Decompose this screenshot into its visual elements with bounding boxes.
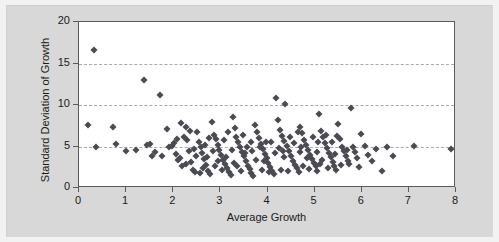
data-point: [209, 147, 216, 154]
data-point: [328, 138, 335, 145]
data-point: [305, 165, 312, 172]
data-point: [315, 139, 322, 146]
x-axis-tick-label: 8: [440, 194, 470, 206]
x-axis-tick: [455, 187, 456, 192]
data-point: [221, 136, 228, 143]
x-axis-tick: [125, 187, 126, 192]
data-point: [346, 160, 353, 167]
data-point: [90, 47, 97, 54]
data-point: [109, 124, 116, 131]
data-point: [357, 131, 364, 138]
data-point: [85, 121, 92, 128]
data-point: [187, 127, 194, 134]
data-point: [337, 161, 344, 168]
data-point: [335, 121, 342, 128]
data-point: [252, 121, 259, 128]
x-axis-tick: [219, 187, 220, 192]
data-point: [410, 142, 417, 149]
y-axis-tick-label: 15: [52, 57, 70, 68]
data-point: [282, 101, 289, 108]
x-axis-tick: [78, 187, 79, 192]
scatter-plot-figure: Standard Deviation of Growth 05101520 01…: [0, 0, 499, 242]
gridline-y-10: [79, 105, 454, 106]
data-point: [295, 169, 302, 176]
data-point: [224, 129, 231, 136]
data-point: [277, 166, 284, 173]
data-point: [206, 170, 213, 177]
x-axis-tick-label: 3: [204, 194, 234, 206]
data-point: [272, 95, 279, 102]
data-point: [384, 143, 391, 150]
x-axis-tick-label: 5: [299, 194, 329, 206]
data-point: [378, 168, 385, 175]
data-point: [285, 168, 292, 175]
y-axis-tick-label: 5: [52, 140, 70, 151]
x-axis-tick-label: 7: [393, 194, 423, 206]
x-axis-tick: [172, 187, 173, 192]
data-point: [316, 111, 323, 118]
data-point: [361, 142, 368, 149]
data-point: [355, 164, 362, 171]
x-axis-tick: [408, 187, 409, 192]
x-axis-tick-label: 0: [63, 194, 93, 206]
plot-area: [78, 21, 455, 187]
data-point: [157, 91, 164, 98]
data-point: [92, 144, 99, 151]
data-point: [389, 152, 396, 159]
x-axis-label: Average Growth: [78, 211, 455, 223]
data-point: [239, 131, 246, 138]
data-point: [184, 136, 191, 143]
data-point: [313, 149, 320, 156]
x-axis-tick-label: 4: [252, 194, 282, 206]
data-point: [250, 172, 257, 179]
x-axis-tick-label: 6: [346, 194, 376, 206]
data-point: [253, 156, 260, 163]
data-point: [208, 119, 215, 126]
data-point: [123, 147, 130, 154]
x-axis-tick-label: 2: [157, 194, 187, 206]
x-axis-tick: [361, 187, 362, 192]
data-point: [314, 167, 321, 174]
data-point: [231, 125, 238, 132]
data-point: [369, 157, 376, 164]
data-point: [249, 148, 256, 155]
data-point: [158, 152, 165, 159]
x-axis-tick-label: 1: [110, 194, 140, 206]
gridline-y-15: [79, 64, 454, 65]
data-point: [254, 128, 261, 135]
data-point: [193, 129, 200, 136]
data-point: [274, 116, 281, 123]
data-point: [238, 168, 245, 175]
data-point: [140, 77, 147, 84]
y-axis-tick-label: 0: [52, 181, 70, 192]
y-axis-label: Standard Deviation of Growth: [39, 10, 51, 210]
x-axis-tick: [314, 187, 315, 192]
y-axis-tick-label: 10: [52, 98, 70, 109]
data-point: [353, 155, 360, 162]
x-axis-tick: [267, 187, 268, 192]
data-point: [227, 171, 234, 178]
data-point: [258, 166, 265, 173]
data-point: [163, 126, 170, 133]
y-axis-tick-label: 20: [52, 15, 70, 26]
data-point: [229, 113, 236, 120]
